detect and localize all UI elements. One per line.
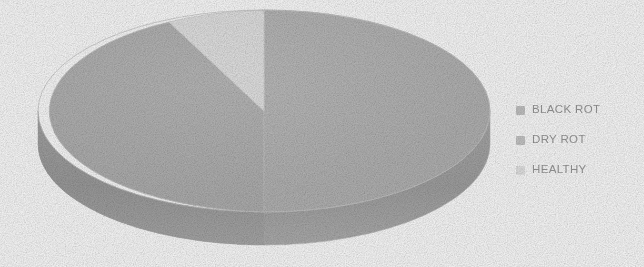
chart-legend: BLACK ROT DRY ROT HEALTHY — [516, 95, 640, 185]
pie-top-outline — [38, 10, 490, 212]
pie-chart-graphic — [0, 0, 510, 267]
legend-label-healthy: HEALTHY — [532, 164, 587, 176]
legend-swatch-dry-rot — [516, 136, 525, 145]
pie-top-face — [38, 10, 490, 212]
legend-item-healthy[interactable]: HEALTHY — [516, 155, 640, 185]
legend-label-dry-rot: DRY ROT — [532, 134, 586, 146]
chart-plot-area — [0, 0, 510, 267]
legend-label-black-rot: BLACK ROT — [532, 104, 600, 116]
legend-item-dry-rot[interactable]: DRY ROT — [516, 125, 640, 155]
pie-chart-figure: BLACK ROT DRY ROT HEALTHY — [0, 0, 644, 267]
legend-swatch-healthy — [516, 166, 525, 175]
legend-swatch-black-rot — [516, 106, 525, 115]
legend-item-black-rot[interactable]: BLACK ROT — [516, 95, 640, 125]
